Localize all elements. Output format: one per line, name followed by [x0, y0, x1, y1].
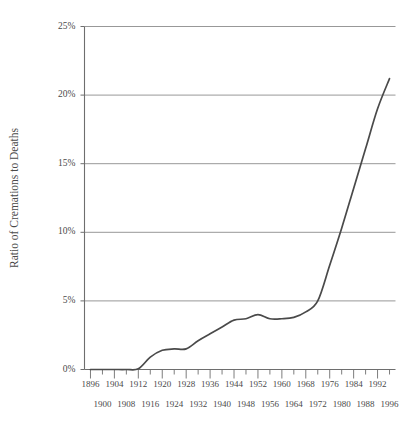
x-tick-label: 1984 — [345, 379, 364, 389]
y-tick-label: 20% — [58, 89, 76, 99]
x-tick-label: 1924 — [165, 399, 184, 409]
x-tick-label: 1944 — [225, 379, 244, 389]
x-tick-label: 1980 — [333, 399, 352, 409]
x-tick-label: 1976 — [321, 379, 340, 389]
x-tick-label: 1940 — [213, 399, 232, 409]
x-axis-tick-labels-upper: 1896190419121920192819361944195219601968… — [81, 379, 386, 389]
grid-lines — [85, 27, 396, 370]
x-tick-label: 1908 — [117, 399, 136, 409]
x-tick-label: 1956 — [261, 399, 280, 409]
x-tick-label: 1996 — [381, 399, 400, 409]
x-tick-label: 1952 — [249, 379, 267, 389]
x-tick-label: 1936 — [201, 379, 220, 389]
series-line-cremation-ratio — [90, 79, 389, 370]
y-tick-label: 25% — [58, 21, 76, 31]
x-tick-label: 1988 — [357, 399, 376, 409]
x-tick-label: 1964 — [285, 399, 304, 409]
y-tick-label: 10% — [58, 226, 76, 236]
x-tick-label: 1904 — [105, 379, 124, 389]
x-tick-label: 1992 — [369, 379, 387, 389]
y-axis-title-label: Ratio of Cremations to Deaths — [8, 128, 20, 268]
x-tick-label: 1920 — [153, 379, 172, 389]
y-axis-ticks: 0%5%10%15%20%25% — [58, 21, 84, 374]
x-tick-label: 1932 — [189, 399, 207, 409]
y-tick-label: 0% — [63, 364, 76, 374]
x-tick-label: 1896 — [81, 379, 100, 389]
x-tick-label: 1960 — [273, 379, 292, 389]
x-tick-label: 1928 — [177, 379, 196, 389]
x-tick-label: 1916 — [141, 399, 160, 409]
x-tick-label: 1972 — [309, 399, 327, 409]
y-axis-title: Ratio of Cremations to Deaths — [8, 128, 20, 268]
y-tick-label: 5% — [63, 295, 76, 305]
line-chart: 0%5%10%15%20%25% 18961904191219201928193… — [0, 0, 416, 429]
y-tick-label: 15% — [58, 158, 76, 168]
x-tick-label: 1968 — [297, 379, 316, 389]
data-series-line — [90, 79, 389, 370]
x-axis-tick-labels-lower: 1900190819161924193219401948195619641972… — [93, 399, 399, 409]
x-tick-label: 1900 — [93, 399, 112, 409]
x-tick-label: 1948 — [237, 399, 256, 409]
chart-container: 0%5%10%15%20%25% 18961904191219201928193… — [0, 0, 416, 429]
x-axis-ticks — [90, 370, 389, 379]
x-tick-label: 1912 — [129, 379, 147, 389]
